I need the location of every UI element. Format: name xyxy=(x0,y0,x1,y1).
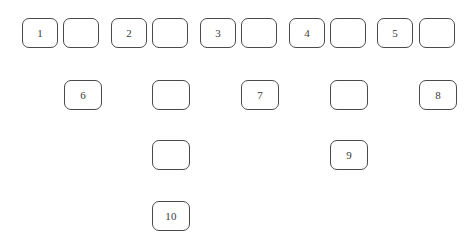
box-label: 4 xyxy=(304,28,310,39)
box-label: 2 xyxy=(126,28,132,39)
box-empty-r1-c6[interactable] xyxy=(241,18,277,48)
box-empty-r3-c1[interactable] xyxy=(152,140,190,170)
box-10[interactable]: 10 xyxy=(152,201,190,231)
box-label: 7 xyxy=(257,90,263,101)
box-label: 10 xyxy=(165,211,176,222)
box-label: 1 xyxy=(37,28,43,39)
box-empty-r2-c2[interactable] xyxy=(152,80,190,110)
box-diagram-canvas: 12345678910 xyxy=(0,0,475,249)
box-empty-r2-c4[interactable] xyxy=(330,80,368,110)
box-7[interactable]: 7 xyxy=(241,80,279,110)
box-label: 9 xyxy=(346,150,352,161)
box-9[interactable]: 9 xyxy=(330,140,368,170)
box-empty-r1-c10[interactable] xyxy=(419,18,455,48)
box-empty-r1-c4[interactable] xyxy=(152,18,188,48)
box-5[interactable]: 5 xyxy=(377,18,413,48)
box-empty-r1-c8[interactable] xyxy=(330,18,366,48)
box-2[interactable]: 2 xyxy=(111,18,147,48)
box-3[interactable]: 3 xyxy=(200,18,236,48)
box-1[interactable]: 1 xyxy=(22,18,58,48)
box-4[interactable]: 4 xyxy=(289,18,325,48)
box-label: 8 xyxy=(435,90,441,101)
box-empty-r1-c2[interactable] xyxy=(63,18,99,48)
box-8[interactable]: 8 xyxy=(419,80,457,110)
box-6[interactable]: 6 xyxy=(64,80,102,110)
box-label: 6 xyxy=(80,90,86,101)
box-label: 5 xyxy=(392,28,398,39)
box-label: 3 xyxy=(215,28,221,39)
